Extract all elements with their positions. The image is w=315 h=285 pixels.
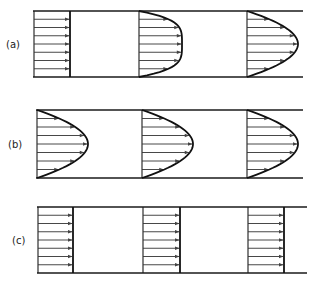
panel-b: (b)	[8, 110, 303, 178]
velocity-profile-diagram: (a) (b) (c)	[0, 0, 315, 285]
panel-label-a: (a)	[6, 39, 20, 50]
panel-label-b: (b)	[8, 139, 22, 150]
panel-a: (a)	[6, 11, 303, 77]
panel-label-c: (c)	[12, 235, 25, 246]
panel-c: (c)	[12, 207, 307, 273]
